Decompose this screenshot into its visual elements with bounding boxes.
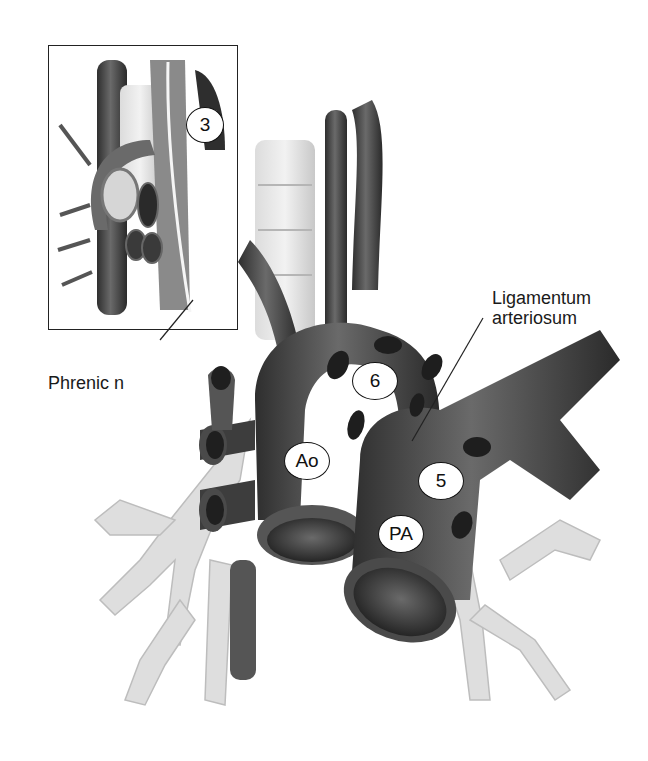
bronchial-tree-left	[95, 420, 250, 705]
diagram-canvas: 3 6 Ao 5 PA Phrenic n Ligamentum arterio…	[0, 0, 648, 761]
phrenic-nerve-label: Phrenic n	[48, 373, 124, 393]
station-5-marker: 5	[418, 462, 464, 500]
inset-frame	[48, 45, 238, 330]
pulmonary-artery-marker: PA	[378, 515, 424, 553]
ligamentum-arteriosum-label-line2: arteriosum	[492, 308, 577, 328]
station-6-marker: 6	[352, 362, 398, 400]
aorta-marker: Ao	[284, 442, 330, 480]
station-3-marker: 3	[186, 107, 224, 143]
ligamentum-arteriosum-label-line1: Ligamentum	[492, 288, 591, 308]
